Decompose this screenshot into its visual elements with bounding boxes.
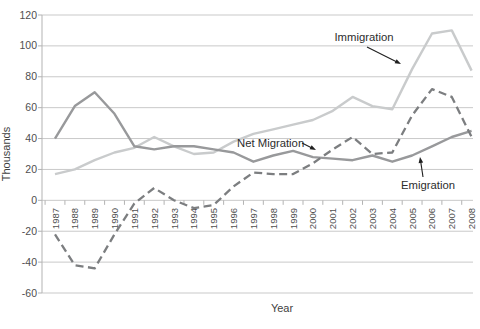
x-tick-label: 1987 [50,208,61,229]
y-tick-label: 120 [19,9,37,21]
x-tick-label: 1998 [268,208,279,229]
x-tick-label: 1999 [288,208,299,229]
x-tick-label: 1989 [89,208,100,229]
x-tick-label: 2008 [466,208,477,229]
chart-canvas: 120100806040200-20-40-601987198819891990… [0,0,480,329]
x-tick-label: 1991 [129,208,140,229]
x-tick-label: 2006 [426,208,437,229]
y-tick-label: 40 [25,132,37,144]
series-line-immigration [55,30,472,174]
x-tick-label: 1988 [69,208,80,229]
migration-line-chart: 120100806040200-20-40-601987198819891990… [0,0,480,329]
x-tick-label: 2000 [307,208,318,229]
x-tick-label: 1995 [208,208,219,229]
y-tick-label: 100 [19,39,37,51]
x-tick-label: 2003 [367,208,378,229]
y-tick-label: 80 [25,70,37,82]
x-tick-label: 1993 [169,208,180,229]
x-tick-label: 2002 [347,208,358,229]
annotation-label-emigration: Emigration [401,179,455,191]
x-tick-label: 2007 [446,208,457,229]
y-tick-label: -40 [22,256,37,268]
annotation-label-net-migration: Net Migration [237,137,304,149]
annotation-arrow-immigration [367,47,397,62]
y-tick-label: 0 [31,194,37,206]
x-tick-label: 1994 [188,208,199,229]
x-tick-label: 1990 [109,208,120,229]
annotation-arrowhead-net-migration [310,145,316,150]
annotation-arrowhead-immigration [395,59,401,64]
x-tick-label: 1996 [228,208,239,229]
y-tick-label: -20 [22,225,37,237]
x-tick-label: 1997 [248,208,259,229]
x-tick-label: 1992 [149,208,160,229]
y-tick-label: 20 [25,163,37,175]
y-tick-label: 60 [25,101,37,113]
annotation-label-immigration: Immigration [334,31,393,43]
y-tick-label: -60 [22,287,37,299]
x-axis-title: Year [232,302,332,314]
x-tick-label: 2005 [407,208,418,229]
y-axis-title: Thousands [0,124,12,184]
x-tick-label: 2001 [327,208,338,229]
x-tick-label: 2004 [387,208,398,229]
annotation-arrowhead-emigration [419,157,424,163]
